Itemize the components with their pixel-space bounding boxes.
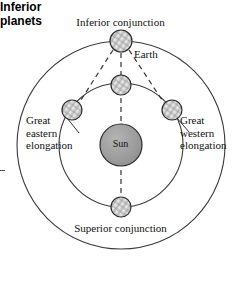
margin-tick-mark — [0, 170, 5, 171]
label-inferior-conjunction: Inferior conjunction — [0, 16, 241, 29]
planet-at-inferior-conjunction — [111, 75, 131, 95]
planet-at-great-western-elongation — [162, 100, 182, 120]
planet-at-superior-conjunction — [111, 197, 131, 217]
earth-body — [110, 30, 132, 52]
sightline-earth-to-eastern — [79, 50, 113, 103]
label-sun: Sun — [0, 138, 241, 151]
label-superior-conjunction: Superior conjunction — [0, 222, 241, 235]
label-earth: Earth — [134, 48, 158, 61]
inferior-planets-diagram: Inferior conjunction Earth Great eastern… — [0, 0, 241, 285]
